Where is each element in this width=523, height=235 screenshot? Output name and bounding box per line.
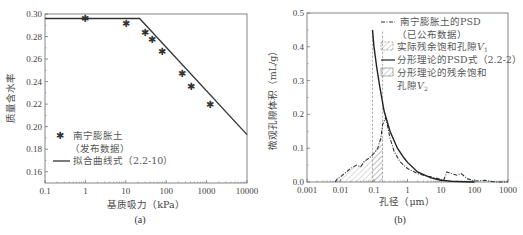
b-xlabel: 孔径（μm）	[379, 196, 434, 207]
b-legend: 南宁膨胀土的PSD （已公布数据） 实际残余饱和孔隙V1 分形理论的PSD式（2…	[381, 16, 522, 92]
b-legend-item-4-line-2: 孔隙V2	[397, 80, 428, 92]
a-xtick-label: 10000	[236, 186, 259, 196]
a-ylabel: 质量含水率	[5, 73, 16, 123]
b-ytick-label: 0.5	[293, 8, 305, 18]
figure: 0.11101001000100000.160.180.200.220.240.…	[0, 0, 523, 235]
a-series: ✱✱✱✱✱✱✱✱	[45, 13, 247, 135]
a-xtick-label: 1	[83, 186, 88, 196]
b-xtick-label: 0.1	[368, 185, 379, 195]
data-point-star: ✱	[206, 99, 214, 110]
b-legend-item-1-line-1: 南宁膨胀土的PSD	[400, 16, 481, 27]
legend-dashed-hatch-icon	[381, 42, 393, 50]
b-legend-item-4-line-1: 分形理论的残余饱和	[397, 67, 487, 78]
b-legend-item-2-sub: 1	[484, 46, 488, 53]
a-xlabel: 基质吸力（kPa）	[107, 199, 184, 210]
a-ytick-label: 0.24	[26, 77, 42, 87]
a-ytick-label: 0.22	[26, 99, 42, 109]
a-legend-item-1-line-2: （发布数据）	[70, 143, 130, 154]
data-point-star: ✱	[158, 46, 166, 57]
a-ytick-label: 0.18	[26, 144, 42, 154]
a-xtick-label: 1000	[198, 186, 217, 196]
b-ytick-label: 0.3	[293, 76, 305, 86]
fractal-psd-line	[373, 30, 475, 182]
b-legend-item-4-sub: 2	[424, 85, 428, 92]
a-panel-label: (a)	[134, 214, 145, 226]
b-legend-item-4-text: 孔隙	[397, 80, 417, 91]
b-ytick-label: 0.4	[293, 42, 305, 52]
b-series	[335, 30, 508, 182]
a-legend-item-2: 拟合曲线式（2.2-10）	[73, 155, 173, 166]
data-point-star: ✱	[187, 81, 195, 92]
a-ytick-label: 0.26	[26, 54, 42, 64]
b-legend-item-2-text: 实际残余饱和孔隙	[397, 41, 477, 52]
b-ytick-label: 0.1	[293, 143, 304, 153]
data-point-star: ✱	[148, 34, 156, 45]
b-xtick-label: 1	[405, 185, 410, 195]
b-legend-item-2: 实际残余饱和孔隙V1	[397, 41, 488, 53]
chart-a: 0.11101001000100000.160.180.200.220.240.…	[5, 9, 259, 226]
b-xtick-label: 10	[437, 185, 447, 195]
b-xtick-label: 0.01	[333, 185, 349, 195]
b-legend-item-3: 分形理论的PSD式（2.2-2）	[397, 54, 522, 65]
data-point-star: ✱	[178, 68, 186, 79]
data-point-star: ✱	[81, 13, 89, 24]
a-ytick-label: 0.20	[26, 122, 42, 132]
a-xtick-label: 10	[121, 186, 131, 196]
a-xtick-label: 100	[159, 186, 173, 196]
b-ytick-label: 0.2	[293, 109, 304, 119]
a-ytick-label: 0.28	[26, 32, 42, 42]
b-legend-item-1-line-2: （已公布数据）	[397, 29, 467, 40]
legend-star-icon: ✱	[56, 130, 64, 141]
a-ytick-label: 0.16	[26, 167, 42, 177]
b-shaded-regions	[335, 30, 382, 182]
b-xtick-label: 1000	[499, 185, 518, 195]
legend-hatch-icon	[381, 68, 393, 76]
a-legend-item-1-line-1: 南宁膨胀土	[73, 130, 123, 141]
b-ytick-label: 0.0	[293, 177, 305, 187]
b-xtick-label: 100	[468, 185, 482, 195]
a-ytick-label: 0.30	[26, 9, 42, 19]
b-panel-label: (b)	[394, 214, 406, 226]
a-legend: ✱ 南宁膨胀土 （发布数据） 拟合曲线式（2.2-10）	[53, 130, 173, 166]
a-xtick-label: 0.1	[39, 186, 50, 196]
data-point-star: ✱	[122, 18, 130, 29]
b-ylabel: 微观孔隙体积（mL/g）	[267, 46, 278, 151]
chart-b: 0.0010.010.111010010000.00.10.20.30.40.5…	[267, 8, 522, 226]
